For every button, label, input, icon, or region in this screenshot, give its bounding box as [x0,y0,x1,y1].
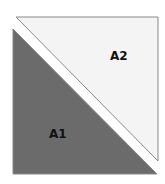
area-diagram: A2 A1 [0,0,165,184]
region-a2-label: A2 [110,49,128,63]
region-a1-label: A1 [49,127,67,141]
